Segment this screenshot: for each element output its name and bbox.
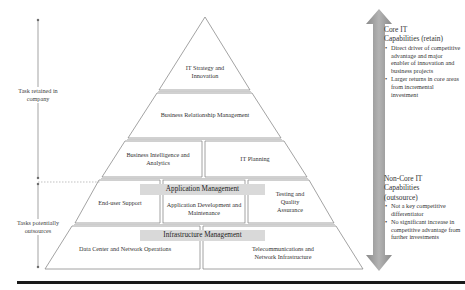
- tier-testing-qa: Testing and Quality Assurance: [272, 190, 308, 214]
- annotation-tasks-outsourced: Tasks potentially outsources: [12, 219, 64, 235]
- tier-it-planning: IT Planning: [225, 155, 285, 163]
- tier-app-dev-maintenance: Application Development and Maintenance: [166, 201, 242, 217]
- noncore-bullet: No significant increase in competitive a…: [391, 218, 462, 241]
- banner-infrastructure-management: Infrastructure Management: [140, 230, 265, 241]
- core-capabilities-panel: Core IT Capabilities (retain) Direct dri…: [384, 25, 462, 98]
- noncore-capabilities-panel: Non-Core IT Capabilities (outsource) Not…: [384, 174, 462, 241]
- noncore-title-line3: (outsource): [384, 193, 462, 202]
- tier-it-strategy: IT Strategy and Innovation: [178, 64, 232, 80]
- noncore-title-line1: Non-Core IT: [384, 174, 462, 183]
- core-title-line2: Capabilities (retain): [384, 34, 462, 43]
- tier-business-relationship: Business Relationship Management: [150, 111, 260, 119]
- banner-application-management: Application Management: [140, 184, 265, 195]
- annotation-task-retained: Task retained in company: [14, 87, 62, 103]
- tier-end-user-support: End-user Support: [85, 199, 155, 207]
- core-bullet: Direct driver of competitive advantage a…: [391, 44, 462, 75]
- bottom-rule: [17, 281, 465, 284]
- noncore-title-line2: Capabilities: [384, 183, 462, 192]
- core-bullet: Larger returns in core areas from increm…: [391, 75, 462, 98]
- core-title-line1: Core IT: [384, 25, 462, 34]
- tier-data-center: Data Center and Network Operations: [65, 245, 185, 253]
- tier-telecom: Telecommunications and Network Infrastru…: [243, 245, 323, 261]
- noncore-bullet: Not a key competitive differentiator: [391, 202, 462, 218]
- tier-business-intelligence: Business Intelligence and Analytics: [118, 151, 198, 167]
